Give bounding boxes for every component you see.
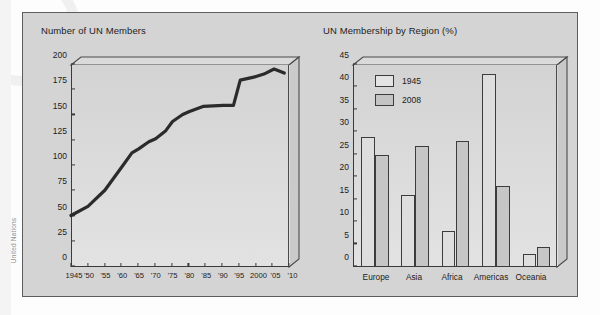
y-label-175: 175 [41,75,67,85]
panel-un-members-line: Number of UN Members 0 25 [23,13,309,296]
x-label-2010: '10 [288,271,298,280]
bar-chart-right-frame [556,65,557,267]
page-canvas: United Nations Number of UN Members [0,0,600,315]
bar-americas-2008 [496,186,510,267]
y-label-50: 50 [41,202,67,212]
bar-asia-1945 [401,195,415,267]
panel-title-line-chart: Number of UN Members [41,25,146,36]
bar-oceania-2008 [537,247,551,267]
bar-oceania-1945 [523,254,537,267]
y-label-100: 100 [41,151,67,161]
bar-asia-2008 [415,146,429,267]
y-label-25: 25 [323,140,349,150]
y-label-30: 30 [323,117,349,127]
x-label-1995: '95 [234,271,244,280]
bar-chart-bars-layer [354,65,556,267]
y-label-45: 45 [323,50,349,60]
bar-americas-1945 [482,74,496,267]
line-chart-series-path [71,65,291,267]
x-label-1960: '60 [117,271,127,280]
x-label-1970: '70 [151,271,161,280]
panel-membership-by-region: UN Membership by Region (%) 0 5 10 [309,13,579,296]
x-label-2000: 2000 [250,271,267,280]
bar-europe-1945 [361,137,375,267]
x-label-1985: '85 [201,271,211,280]
y-label-20: 20 [323,162,349,172]
y-label-0: 0 [41,252,67,262]
x-label-1975: '75 [168,271,178,280]
y-label-75: 75 [41,176,67,186]
x-label-1990: '90 [218,271,228,280]
x-label-1955: '55 [101,271,111,280]
y-label-40: 40 [323,72,349,82]
y-label-125: 125 [41,126,67,136]
figure-frame: Number of UN Members 0 25 [22,12,578,297]
x-label-1945: 1945 [66,271,83,280]
category-label-oceania: Oceania [516,272,547,282]
category-label-europe: Europe [363,272,390,282]
panel-title-bar-chart: UN Membership by Region (%) [323,25,457,36]
bar-europe-2008 [375,155,389,267]
y-label-10: 10 [323,207,349,217]
y-label-25: 25 [41,227,67,237]
x-label-2005: '05 [271,271,281,280]
y-label-150: 150 [41,101,67,111]
category-label-asia: Asia [406,272,422,282]
x-label-1965: '65 [134,271,144,280]
source-credit-label: United Nations [10,211,17,271]
y-label-35: 35 [323,95,349,105]
y-label-15: 15 [323,185,349,195]
y-label-5: 5 [323,230,349,240]
x-label-1950: '50 [84,271,94,280]
bar-africa-2008 [456,141,470,267]
y-label-200: 200 [41,50,67,60]
y-label-0: 0 [323,252,349,262]
bar-chart-plot-area: 0 5 10 15 20 25 30 35 40 [353,57,567,275]
bar-africa-1945 [442,231,456,267]
category-label-americas: Americas [474,272,509,282]
category-label-africa: Africa [441,272,462,282]
line-chart-plot-area: 0 25 50 75 100 125 150 175 200 [71,57,299,275]
x-label-1980: '80 [184,271,194,280]
